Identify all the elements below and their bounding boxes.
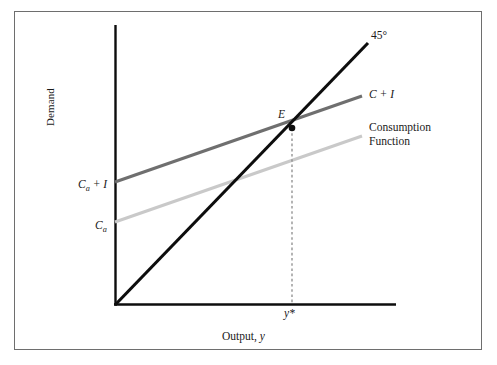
ca-intercept-label: Ca xyxy=(95,219,107,235)
forty-five-degree-label: 45° xyxy=(371,29,387,43)
ca-subscript: a xyxy=(103,225,107,234)
consumption-function-label: Consumption Function xyxy=(369,120,431,149)
consumption-function-label-line1: Consumption xyxy=(369,120,431,134)
consumption-function-label-line2: Function xyxy=(369,134,431,148)
plot-canvas xyxy=(0,0,497,365)
ca-symbol: C xyxy=(95,219,103,231)
equilibrium-output-label: y* xyxy=(284,307,295,321)
ca-plus-i-intercept-label: Ca + I xyxy=(78,178,107,194)
forty-five-degree-line xyxy=(115,43,368,305)
y-axis-label: Demand xyxy=(44,88,57,126)
equilibrium-point-label: E xyxy=(278,108,285,122)
equilibrium-point-marker xyxy=(289,125,296,132)
x-axis-label-text: Output, xyxy=(222,330,260,342)
x-axis-label-variable: y xyxy=(260,330,265,342)
keynesian-cross-figure: Demand Output, y 45° C + I Consumption F… xyxy=(0,0,497,365)
ca-plus-i-tail: + I xyxy=(90,178,107,190)
c-plus-i-label: C + I xyxy=(369,88,394,102)
c-plus-i-line xyxy=(115,96,362,182)
ca-plus-i-symbol: C xyxy=(78,178,86,190)
x-axis-label: Output, y xyxy=(222,330,265,344)
